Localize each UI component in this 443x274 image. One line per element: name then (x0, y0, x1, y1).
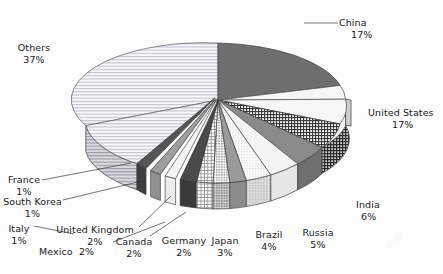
slice-label-south-korea-name: South Korea (2, 196, 63, 208)
slice-label-france: France 1% (5, 174, 43, 197)
slice-label-germany-value: 2% (159, 247, 209, 259)
slice-label-mexico-value: 2% (79, 246, 94, 257)
slice-label-russia-value: 5% (298, 239, 338, 251)
slice-label-united-states: United States 17% (368, 107, 434, 130)
slice-label-united-kingdom: United Kingdom 2% (51, 224, 139, 247)
slice-label-united-kingdom-name: United Kingdom (51, 224, 139, 236)
slice-label-italy-value: 1% (4, 235, 34, 247)
slice-label-united-kingdom-value: 2% (51, 236, 139, 248)
slice-label-germany: Germany 2% (159, 235, 209, 258)
slice-label-south-korea: South Korea 1% (2, 196, 63, 219)
slice-label-china-value: 17% (351, 29, 372, 41)
slice-label-united-states-value: 17% (392, 119, 434, 131)
slice-label-brazil-value: 4% (251, 241, 287, 253)
slice-label-others-name: Others (12, 42, 56, 54)
slice-label-mexico: Mexico 2% (39, 246, 94, 258)
slice-label-russia: Russia 5% (298, 227, 338, 250)
slice-label-india-name: India (356, 199, 380, 211)
slice-label-china-name: China (339, 17, 372, 29)
slice-label-others-value: 37% (12, 54, 56, 66)
slice-label-russia-name: Russia (298, 227, 338, 239)
slice-label-united-states-name: United States (368, 107, 434, 119)
side-wall-germany (230, 181, 247, 209)
slice-label-japan: Japan 3% (208, 235, 242, 258)
side-wall-canada (213, 183, 230, 209)
side-wall-south-korea (151, 171, 161, 201)
slice-label-japan-name: Japan (208, 235, 242, 247)
slice-label-japan-value: 3% (208, 247, 242, 259)
slice-label-india: India 6% (356, 199, 380, 222)
slice-label-south-korea-value: 1% (2, 208, 63, 220)
slice-label-china: China 17% (339, 17, 372, 40)
slice-label-france-name: France (5, 174, 43, 186)
slice-label-brazil: Brazil 4% (251, 229, 287, 252)
slice-label-brazil-name: Brazil (251, 229, 287, 241)
slice-label-italy-name: Italy (4, 223, 34, 235)
side-wall-united-kingdom (180, 180, 196, 208)
pie-chart: China 17% United States 17% India 6% Rus… (0, 0, 443, 274)
slice-label-others: Others 37% (12, 42, 56, 65)
slice-label-germany-name: Germany (159, 235, 209, 247)
slice-label-italy: Italy 1% (4, 223, 34, 246)
side-wall-mexico (196, 182, 213, 209)
slice-label-france-value: 1% (5, 186, 43, 198)
slice-label-india-value: 6% (361, 211, 380, 223)
slice-label-canada-value: 2% (113, 248, 155, 260)
slice-label-mexico-name: Mexico (39, 246, 73, 257)
